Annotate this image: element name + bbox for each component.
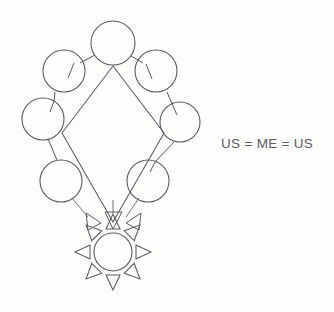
- upper-right-circle: [135, 50, 177, 92]
- sun-ray-7: [75, 245, 90, 259]
- stub-upper-right-to-mid-right: [167, 92, 172, 104]
- stub-upper-left-inner: [68, 63, 74, 78]
- stub-upper-left-to-mid-left: [54, 92, 55, 101]
- sun-ray-5: [106, 275, 120, 290]
- stub-mid-left-inner: [50, 101, 54, 112]
- sun-core-circle: [94, 233, 132, 271]
- lower-left-circle: [40, 160, 82, 202]
- connector-stub-group: [48, 55, 177, 172]
- stub-top-to-upper-left: [80, 55, 95, 63]
- upper-left-circle: [43, 50, 85, 92]
- flow-arrow-group: [72, 198, 141, 230]
- stub-lower-right-inner: [150, 162, 155, 172]
- stub-mid-right-inner: [172, 104, 177, 115]
- diagram-canvas: US = ME = US: [0, 0, 334, 312]
- equation-label: US = ME = US: [221, 136, 313, 151]
- sun-ray-group: [75, 214, 151, 290]
- sun-ray-3: [136, 245, 151, 259]
- concept-diagram: [0, 0, 334, 312]
- stub-mid-left-to-lower-left: [48, 139, 57, 160]
- node-circle-group: [22, 21, 200, 202]
- central-diamond-group: [62, 66, 164, 222]
- flow-lower-right-to-sun-line: [126, 198, 139, 217]
- middle-left-circle: [22, 98, 64, 140]
- flow-lower-left-to-sun-line: [72, 198, 88, 217]
- middle-right-circle: [160, 102, 200, 142]
- top-circle: [91, 21, 135, 65]
- lower-right-circle: [127, 160, 169, 202]
- stub-upper-right-inner: [146, 64, 152, 79]
- stub-mid-right-to-lower-right: [155, 142, 174, 162]
- central-diamond: [62, 66, 164, 222]
- sun-group: [75, 214, 151, 290]
